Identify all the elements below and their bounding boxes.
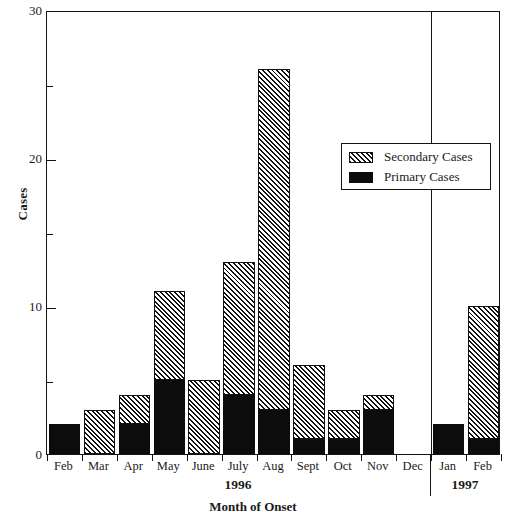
bar-june-1996 <box>188 380 219 454</box>
year-label-1997: 1997 <box>425 477 505 493</box>
bar-feb-1997 <box>468 306 499 454</box>
legend-swatch-primary-icon <box>349 172 373 183</box>
bar-segment-secondary <box>328 410 359 440</box>
year-separator-extension <box>430 455 431 496</box>
bar-segment-primary <box>363 410 394 454</box>
bar-feb-1996 <box>49 424 80 454</box>
bar-nov-1996 <box>363 395 394 454</box>
y-tick-mark <box>47 160 56 161</box>
bar-july-1996 <box>223 262 254 454</box>
bar-segment-primary <box>258 410 289 454</box>
x-tick-label: May <box>151 459 186 474</box>
legend-label-primary: Primary Cases <box>384 169 459 185</box>
bar-segment-primary <box>293 439 324 454</box>
bar-segment-primary <box>433 424 464 454</box>
x-tick-label: Aug <box>256 459 291 474</box>
y-tick-mark-minor <box>47 234 53 235</box>
x-tick-label: July <box>221 459 256 474</box>
x-tick-label: Oct <box>325 459 360 474</box>
x-axis-title: Month of Onset <box>0 499 506 512</box>
y-tick-mark <box>47 308 56 309</box>
bar-mar-1996 <box>84 410 115 454</box>
bar-segment-secondary <box>258 69 289 409</box>
y-tick-label: 30 <box>14 4 42 17</box>
year-label-1996: 1996 <box>198 477 278 493</box>
bar-segment-secondary <box>293 365 324 439</box>
epidemic-curve-chart: Cases 0102030 FebMarAprMayJuneJulyAugSep… <box>0 0 506 512</box>
bar-segment-primary <box>49 424 80 454</box>
bar-segment-primary <box>119 424 150 454</box>
x-tick-label: Feb <box>46 459 81 474</box>
y-tick-label: 10 <box>14 300 42 313</box>
bar-segment-primary <box>328 439 359 454</box>
x-tick-label: Feb <box>465 459 500 474</box>
y-tick-label: 0 <box>14 448 42 461</box>
legend-item-secondary-cases: Secondary Cases <box>349 147 484 167</box>
y-tick-label: 20 <box>14 152 42 165</box>
bar-segment-primary <box>468 439 499 454</box>
bar-may-1996 <box>154 291 185 454</box>
bar-segment-secondary <box>223 262 254 395</box>
bar-sept-1996 <box>293 365 324 454</box>
chart-legend: Secondary Cases Primary Cases <box>341 143 491 190</box>
legend-swatch-secondary-icon <box>349 152 373 163</box>
bar-oct-1996 <box>328 410 359 454</box>
bar-segment-secondary <box>119 395 150 425</box>
bar-segment-secondary <box>363 395 394 410</box>
plot-area <box>46 11 500 455</box>
x-tick-mark <box>501 454 502 461</box>
year-separator-line <box>431 12 432 456</box>
x-tick-label: Sept <box>290 459 325 474</box>
bar-jan-1997 <box>433 424 464 454</box>
bar-apr-1996 <box>119 395 150 454</box>
bar-aug-1996 <box>258 69 289 454</box>
x-tick-label: Dec <box>395 459 430 474</box>
y-tick-label-group: 0102030 <box>8 0 42 512</box>
bar-segment-primary <box>154 380 185 454</box>
x-tick-label: June <box>186 459 221 474</box>
x-tick-label: Nov <box>360 459 395 474</box>
x-tick-label: Apr <box>116 459 151 474</box>
legend-item-primary-cases: Primary Cases <box>349 167 484 187</box>
bar-segment-secondary <box>468 306 499 439</box>
bar-segment-secondary <box>154 291 185 380</box>
y-tick-mark-minor <box>47 382 53 383</box>
legend-label-secondary: Secondary Cases <box>384 149 472 165</box>
x-tick-label: Jan <box>430 459 465 474</box>
x-tick-label: Mar <box>81 459 116 474</box>
bar-segment-primary <box>223 395 254 454</box>
y-tick-mark-minor <box>47 86 53 87</box>
bar-segment-secondary <box>84 410 115 454</box>
bar-segment-secondary <box>188 380 219 454</box>
